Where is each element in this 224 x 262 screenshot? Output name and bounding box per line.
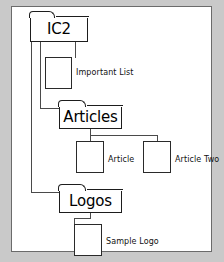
document-node-article-two[interactable] [143,141,171,173]
folder-node-logos[interactable]: Logos [59,191,122,213]
connector-logos-bus [74,218,91,219]
connector-ic2-trunk-outer [31,41,32,193]
folder-tab-icon [29,11,55,18]
folder-label-logos: Logos [69,194,112,210]
diagram-frame: IC2 Important List Articles Article Arti… [11,6,212,252]
folder-node-ic2[interactable]: IC2 [30,18,88,42]
document-node-important-list[interactable] [45,57,72,89]
document-node-sample-logo[interactable] [74,224,102,256]
connector-ic2-trunk-inner [40,41,41,109]
folder-node-articles[interactable]: Articles [59,107,122,129]
connector-articles-bus [90,135,158,136]
folder-tab-icon [58,184,86,191]
document-label-sample-logo: Sample Logo [106,238,159,246]
folder-top-edge [87,189,123,190]
connector-ic2-to-important-list [75,41,76,58]
diagram-canvas: IC2 Important List Articles Article Arti… [12,7,211,251]
folder-label-articles: Articles [63,110,117,126]
document-label-important-list: Important List [76,69,134,77]
document-node-article[interactable] [76,141,104,173]
folder-label-ic2: IC2 [47,22,71,38]
document-label-article: Article [108,156,134,164]
folder-top-edge [56,16,89,17]
folder-tab-icon [58,100,86,107]
document-label-article-two: Article Two [175,156,219,164]
folder-top-edge [87,105,123,106]
